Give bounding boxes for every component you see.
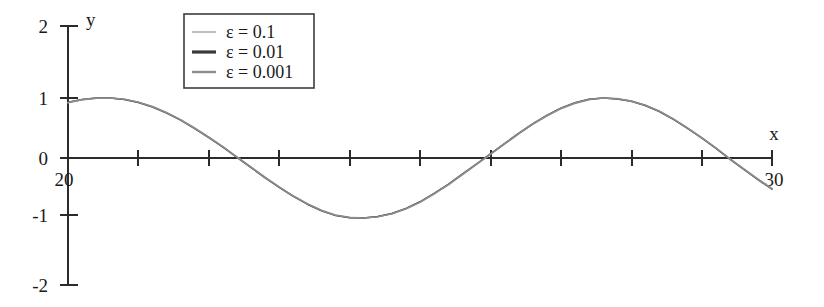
x-tick-label-start: 20 [55,169,74,190]
x-axis-title: x [769,123,779,144]
plot-canvas: 2 1 0 -1 -2 20 30 y x ε = 0.1 ε = 0.01 ε… [0,0,824,307]
legend-label-series-3: ε = 0.001 [226,62,293,82]
legend-label-series-1: ε = 0.1 [226,22,275,42]
chart-legend: ε = 0.1 ε = 0.01 ε = 0.001 [184,14,314,88]
legend-label-series-2: ε = 0.01 [226,42,284,62]
y-tick-label-2: 2 [39,16,49,37]
chart-figure: 2 1 0 -1 -2 20 30 y x ε = 0.1 ε = 0.01 ε… [0,0,824,307]
y-tick-label-1: 1 [39,88,49,109]
y-tick-label-neg2: -2 [32,275,48,296]
y-axis-title: y [86,9,96,30]
y-tick-label-neg1: -1 [32,205,48,226]
y-tick-label-0: 0 [39,148,49,169]
